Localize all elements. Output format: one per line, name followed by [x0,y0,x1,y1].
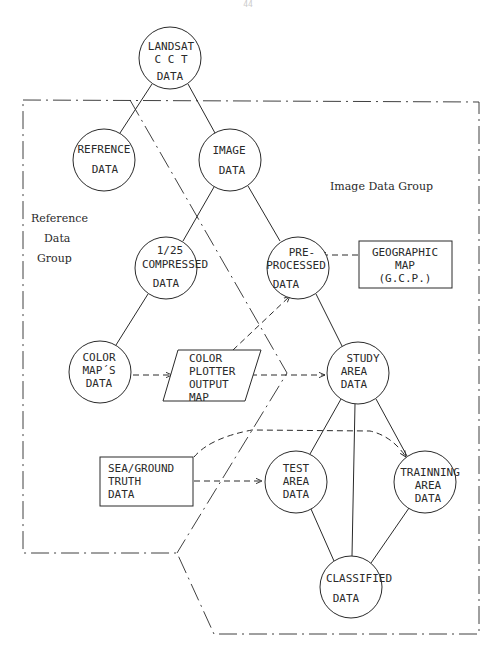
reference-data-group-label: Reference Data Group [31,212,88,265]
svg-text:GEOGRAPHIC: GEOGRAPHIC [372,246,438,259]
svg-text:PLOTTER: PLOTTER [189,365,236,378]
svg-text:Reference: Reference [31,212,88,225]
svg-text:PROCESSED: PROCESSED [266,259,326,272]
svg-text:COMPRESSED: COMPRESSED [142,258,208,271]
svg-text:MAP: MAP [189,391,209,404]
svg-text:IMAGE: IMAGE [212,144,245,157]
svg-text:REFRENCE: REFRENCE [78,143,131,156]
svg-text:MAP: MAP [395,259,415,272]
edge-preprocessed-study [316,294,342,346]
svg-text:STUDY: STUDY [346,352,379,365]
flow-diagram: 44 LANDSAT C C T DATA [0,0,497,652]
node-color-plotter: COLOR PLOTTER OUTPUT MAP [163,350,261,404]
svg-text:LANDSAT: LANDSAT [148,40,195,53]
node-compressed: 1/25 COMPRESSED DATA [135,237,208,299]
svg-text:COLOR: COLOR [82,351,115,364]
edge-study-classified [352,404,355,556]
node-image: IMAGE DATA [199,129,261,191]
svg-text:DATA: DATA [153,277,180,290]
svg-text:DATA: DATA [86,377,113,390]
node-color-maps: COLOR MAP´S DATA [69,341,131,403]
svg-text:CLASSIFIED: CLASSIFIED [326,572,392,585]
edge-landsat-image [188,84,215,133]
svg-text:DATA: DATA [283,488,310,501]
edge-image-preprocessed [248,186,280,241]
svg-text:AREA: AREA [341,365,368,378]
svg-text:1/25: 1/25 [157,244,184,257]
svg-text:Data: Data [44,232,71,245]
svg-text:DATA: DATA [92,163,119,176]
svg-text:SEA/GROUND: SEA/GROUND [108,462,174,475]
node-sea-ground: SEA/GROUND TRUTH DATA [100,457,193,506]
edge-landsat-reference [120,84,152,133]
svg-text:COLOR: COLOR [189,352,222,365]
svg-text:DATA: DATA [333,592,360,605]
node-test-area: TEST AREA DATA [265,451,327,513]
node-landsat: LANDSAT C C T DATA [139,27,201,89]
edge-study-test [310,399,341,454]
edge-compressed-colormaps [116,294,148,345]
edge-test-classified [311,509,334,561]
svg-text:MAP´S: MAP´S [82,364,115,377]
page-number: 44 [243,0,253,9]
svg-text:DATA: DATA [219,164,246,177]
edge-training-classified [371,508,409,563]
node-reference: REFRENCE DATA [73,129,135,191]
svg-text:DATA: DATA [273,278,300,291]
svg-text:DATA: DATA [341,378,368,391]
svg-text:PRE-: PRE- [289,246,316,259]
svg-text:AREA: AREA [283,475,310,488]
svg-text:OUTPUT: OUTPUT [189,378,229,391]
image-data-group-label: Image Data Group [330,180,433,193]
svg-text:TEST: TEST [283,462,310,475]
svg-text:DATA: DATA [415,492,442,505]
node-study-area: STUDY AREA DATA [327,342,389,404]
svg-text:DATA: DATA [108,488,135,501]
node-preprocessed: PRE- PROCESSED DATA [266,237,329,299]
node-training-area: TRAINNING AREA DATA [394,451,460,513]
svg-text:TRUTH: TRUTH [108,475,141,488]
svg-text:AREA: AREA [415,479,442,492]
svg-text:Group: Group [37,252,72,265]
edge-study-training [376,399,407,456]
svg-text:TRAINNING: TRAINNING [400,466,460,479]
nodes: LANDSAT C C T DATA REFRENCE DATA IMAGE D… [69,27,460,618]
node-geographic-map: GEOGRAPHIC MAP (G.C.P.) [359,241,452,288]
svg-text:C C T: C C T [154,53,187,66]
node-classified: CLASSIFIED DATA [320,556,392,618]
svg-text:(G.C.P.): (G.C.P.) [379,272,432,285]
svg-text:DATA: DATA [157,70,184,83]
edge-plotter-preprocessed [233,296,290,350]
edge-image-compressed [183,187,214,241]
